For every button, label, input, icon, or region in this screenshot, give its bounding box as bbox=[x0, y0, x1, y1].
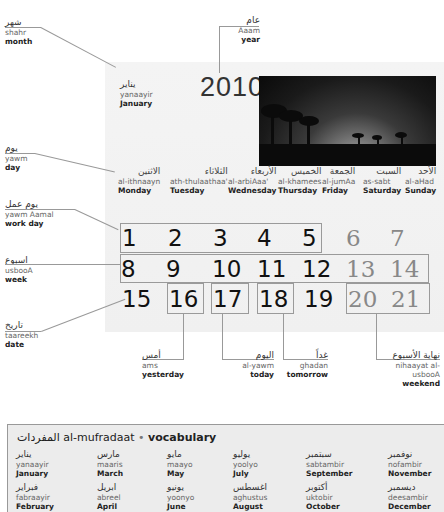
label-arabic: نهاية الأسبوع bbox=[370, 350, 440, 361]
label-translit: yawm bbox=[5, 154, 27, 163]
label-week: اسبوع usbooA week bbox=[5, 255, 33, 284]
date-cell: 5 bbox=[302, 225, 317, 251]
label-translit: al-yawm bbox=[222, 361, 274, 370]
weekday-arabic: السبت bbox=[363, 166, 401, 177]
vocab-item: اغسطسaghustusAugust bbox=[233, 482, 267, 511]
label-translit: yanaayir bbox=[120, 90, 153, 99]
leader-line bbox=[41, 27, 117, 68]
label-english: week bbox=[5, 275, 33, 284]
date-cell-weekend: 21 bbox=[391, 286, 420, 312]
weekday-header: الاثنين al-ithnaayn Monday الثلاثاء ath-… bbox=[118, 166, 444, 202]
label-translit: usbooA bbox=[5, 266, 33, 275]
vocab-item: فبرايرfabraayirFebruary bbox=[16, 482, 54, 511]
label-arabic: غداً bbox=[280, 350, 328, 361]
weekday-translit: as-sabt bbox=[363, 177, 401, 186]
label-today: اليوم al-yawm today bbox=[222, 350, 274, 379]
date-cell-weekend: 20 bbox=[348, 286, 377, 312]
date-cell: 8 bbox=[121, 256, 136, 282]
label-english: date bbox=[5, 340, 38, 349]
weekday-translit: al-khamees bbox=[278, 177, 322, 186]
date-cell: 12 bbox=[302, 256, 331, 282]
vocabulary-title: المفردات al-mufradaat • vocabulary bbox=[17, 431, 216, 444]
vocab-item: ابريلabreelApril bbox=[97, 482, 121, 511]
leader-line bbox=[219, 26, 220, 73]
weekday-english: Thursday bbox=[278, 186, 322, 195]
leader-line bbox=[219, 26, 259, 27]
date-cell: 19 bbox=[304, 286, 333, 312]
weekday-arabic: الجمعة bbox=[322, 166, 355, 177]
date-cell: 17 bbox=[213, 286, 242, 312]
label-translit: ghadan bbox=[280, 361, 328, 370]
date-cell: 1 bbox=[122, 225, 137, 251]
vocab-item: ديسمبرdeesambirDecember bbox=[388, 482, 431, 511]
vocab-item: يوليوyoolyoJuly bbox=[233, 449, 258, 478]
date-cell: 4 bbox=[257, 225, 272, 251]
vocab-item: مارسmaarisMarch bbox=[97, 449, 123, 478]
vocab-item: يونيوyoonyoJune bbox=[167, 482, 194, 511]
weekday-friday: الجمعة al-jumAa Friday bbox=[322, 166, 355, 195]
date-cell-weekend: 13 bbox=[346, 256, 375, 282]
weekday-english: Wednesday bbox=[228, 186, 276, 195]
leader-line bbox=[35, 153, 115, 172]
label-english: tomorrow bbox=[280, 370, 328, 379]
weekday-thursday: الخميس al-khamees Thursday bbox=[278, 166, 322, 195]
vocab-title-arabic: المفردات bbox=[17, 431, 60, 444]
label-arabic: يناير bbox=[120, 79, 153, 90]
date-cell: 9 bbox=[166, 256, 181, 282]
date-cell: 16 bbox=[169, 286, 198, 312]
label-translit: ams bbox=[142, 361, 184, 370]
label-translit: yawm Aamal bbox=[5, 210, 54, 219]
label-month: شهر shahr month bbox=[5, 17, 32, 46]
weekday-translit: al-aHad bbox=[405, 177, 436, 186]
palm-sunset-photo bbox=[259, 76, 436, 166]
weekday-saturday: السبت as-sabt Saturday bbox=[363, 166, 401, 195]
label-year: عام Aaam year bbox=[214, 15, 260, 44]
vocab-item: مايوmaayoMay bbox=[167, 449, 193, 478]
vocab-title-translit: al-mufradaat bbox=[63, 431, 134, 444]
weekday-translit: al-ithnaayn bbox=[118, 177, 160, 186]
year-number: 2010 bbox=[200, 72, 264, 103]
vocab-item: أكتوبرuktobirOctober bbox=[306, 482, 340, 511]
weekday-arabic: الأحد bbox=[405, 166, 436, 177]
leader-line bbox=[5, 331, 41, 332]
weekday-translit: al-jumAa bbox=[322, 177, 355, 186]
weekday-monday: الاثنين al-ithnaayn Monday bbox=[118, 166, 160, 195]
date-cell-weekend: 7 bbox=[390, 225, 405, 251]
label-january: يناير yanaayir January bbox=[120, 79, 153, 108]
weekday-tuesday: الثلاثاء ath-thulaathaa' Tuesday bbox=[170, 166, 228, 195]
weekday-translit: ath-thulaathaa' bbox=[170, 177, 228, 186]
label-day: يوم yawm day bbox=[5, 143, 27, 172]
label-english: month bbox=[5, 37, 32, 46]
leader-line bbox=[5, 153, 35, 154]
label-arabic: تاريخ bbox=[5, 320, 38, 331]
date-cell-weekend: 6 bbox=[346, 225, 361, 251]
vocab-separator: • bbox=[138, 431, 145, 444]
weekday-english: Tuesday bbox=[170, 186, 228, 195]
label-english: day bbox=[5, 163, 27, 172]
label-translit: shahr bbox=[5, 28, 32, 37]
weekday-arabic: الاثنين bbox=[118, 166, 160, 177]
date-cell: 2 bbox=[168, 225, 183, 251]
weekday-wednesday: الأربعاء al-arbiAaa' Wednesday bbox=[228, 166, 276, 195]
weekday-sunday: الأحد al-aHad Sunday bbox=[405, 166, 436, 195]
weekday-arabic: الثلاثاء bbox=[170, 166, 228, 177]
label-translit: taareekh bbox=[5, 331, 38, 340]
date-cell-weekend: 14 bbox=[390, 256, 419, 282]
vocab-item: ينايرyanaayirJanuary bbox=[16, 449, 49, 478]
weekday-english: Saturday bbox=[363, 186, 401, 195]
label-work-day: يوم عمل yawm Aamal work day bbox=[5, 199, 54, 228]
label-weekend: نهاية الأسبوع nihaayat al-usbooA weekend bbox=[370, 350, 440, 388]
label-english: year bbox=[214, 35, 260, 44]
label-date: تاريخ taareekh date bbox=[5, 320, 38, 349]
weekday-arabic: الأربعاء bbox=[228, 166, 276, 177]
date-cell: 15 bbox=[122, 286, 151, 312]
label-english: today bbox=[222, 370, 274, 379]
date-cell: 11 bbox=[257, 256, 286, 282]
weekday-english: Monday bbox=[118, 186, 160, 195]
vocab-item: نوفمبرnofambirNovember bbox=[388, 449, 431, 478]
label-english: January bbox=[120, 99, 153, 108]
label-english: yesterday bbox=[142, 370, 184, 379]
weekday-english: Friday bbox=[322, 186, 355, 195]
weekday-arabic: الخميس bbox=[278, 166, 322, 177]
leader-line bbox=[5, 264, 120, 265]
